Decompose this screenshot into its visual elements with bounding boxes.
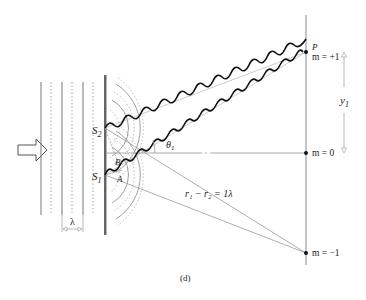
angle-label: θ1 — [166, 139, 174, 152]
point-p — [304, 50, 308, 54]
slit-s2-label: S2 — [92, 124, 102, 139]
order-minus1-label: m = −1 — [312, 248, 340, 258]
order-plus1-label: m = +1 — [312, 52, 340, 62]
point-a-label: A — [116, 174, 123, 184]
double-slit-diagram: λ — [0, 0, 366, 300]
slit-s1-label: S1 — [92, 170, 102, 185]
path-difference-label: r₁ − r₂ = 1λ — [185, 188, 233, 199]
plane-wavefronts — [41, 82, 93, 215]
point-b-label: B — [115, 157, 121, 167]
wavelength-label: λ — [70, 216, 75, 227]
point-m0 — [304, 151, 308, 155]
incident-arrow-icon — [18, 139, 47, 161]
order-zero-label: m = 0 — [312, 148, 334, 158]
y1-label: y1 — [339, 94, 349, 109]
path-difference-construction — [105, 128, 122, 175]
wave-rays-to-p — [105, 39, 306, 175]
barrier — [104, 75, 107, 235]
figure-caption: (d) — [180, 273, 191, 283]
point-m-minus1 — [304, 251, 308, 255]
point-p-label: P — [311, 42, 318, 52]
